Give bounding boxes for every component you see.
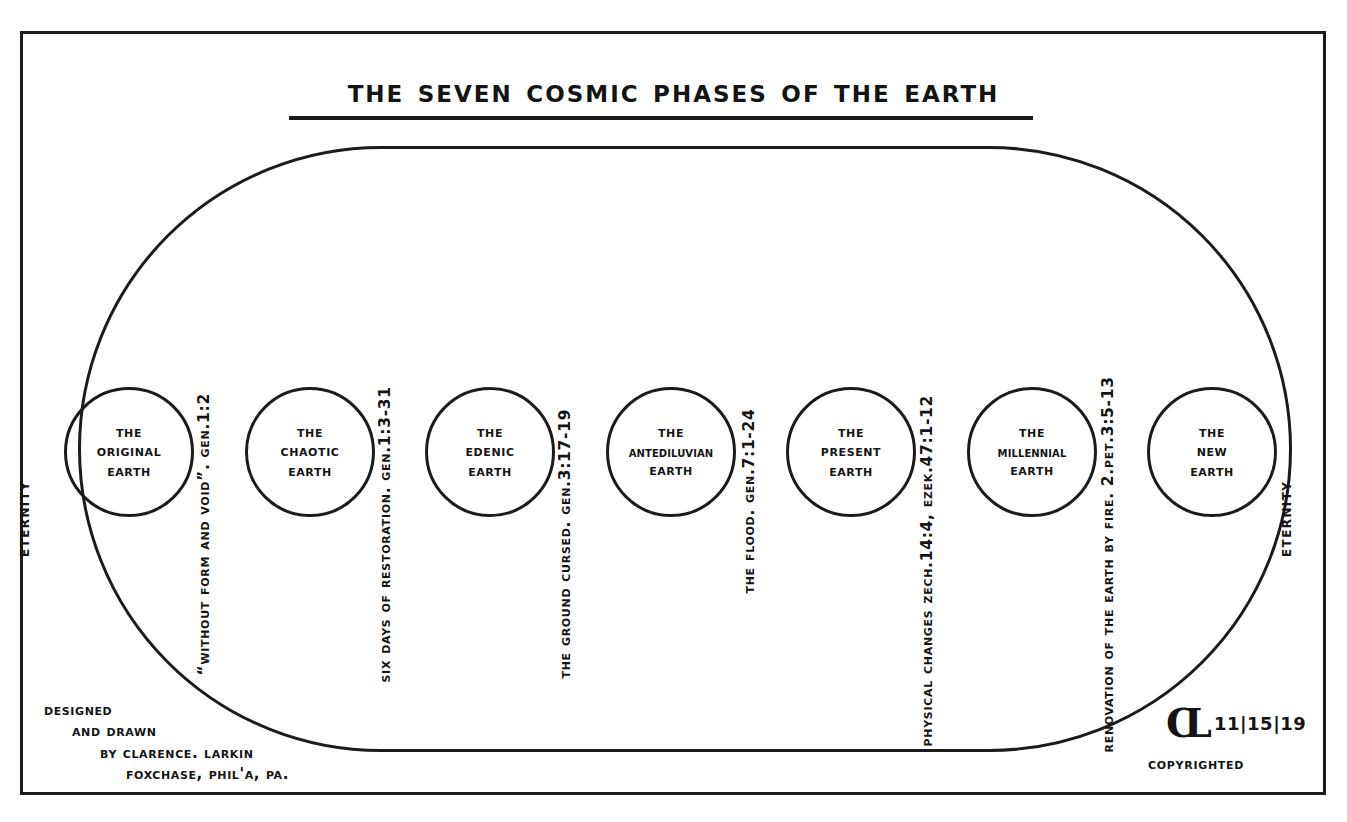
- credit-line-1: Designed: [44, 700, 289, 721]
- phase-line: Earth: [1190, 462, 1234, 482]
- copyright-block: CL 11|15|19 Copyrighted: [1148, 698, 1313, 773]
- phase-line: The: [838, 423, 864, 443]
- phase-line: The: [658, 423, 684, 443]
- phase-circle-antediluvian[interactable]: The Antediluvian Earth: [606, 387, 736, 517]
- phase-line: Chaotic: [280, 442, 339, 462]
- diagram-canvas: The Seven Cosmic Phases Of The Earth Ete…: [0, 0, 1347, 822]
- phase-circle-present[interactable]: The Present Earth: [786, 387, 916, 517]
- phase-circle-millennial[interactable]: The Millennial Earth: [967, 387, 1097, 517]
- phase-line: New: [1197, 442, 1228, 462]
- phase-circle-edenic[interactable]: The Edenic Earth: [425, 387, 555, 517]
- phase-line: The: [116, 423, 142, 443]
- transition-label-renovation-by-fire: Renovation Of The Earth By Fire. 2.Pet.3…: [1101, 376, 1117, 752]
- eternity-label-left: Eternity: [15, 481, 32, 557]
- phase-line: The: [477, 423, 503, 443]
- phase-line: The: [1019, 423, 1045, 443]
- phase-line: Earth: [288, 462, 332, 482]
- credit-line-3: By Clarence. Larkin: [100, 743, 289, 764]
- copyright-row: CL 11|15|19: [1148, 698, 1313, 748]
- phase-line: Edenic: [465, 442, 514, 462]
- phase-line: Original: [97, 442, 162, 462]
- phase-line: Earth: [649, 461, 693, 481]
- phase-line: Earth: [829, 462, 873, 482]
- copyright-word: Copyrighted: [1148, 754, 1313, 773]
- transition-label-without-form-and-void: “Without Form And Void”. Gen.1:2: [197, 393, 213, 675]
- phase-line: The: [297, 423, 323, 443]
- designer-credit-block: Designed and Drawn By Clarence. Larkin F…: [44, 700, 289, 785]
- phase-line: Earth: [468, 462, 512, 482]
- page-title: The Seven Cosmic Phases Of The Earth: [344, 74, 1004, 107]
- phase-line: Present: [821, 442, 881, 462]
- phase-circle-chaotic[interactable]: The Chaotic Earth: [245, 387, 375, 517]
- phase-circle-original[interactable]: The Original Earth: [64, 387, 194, 517]
- transition-label-the-flood: The Flood. Gen.7:1-24: [742, 409, 758, 594]
- copyright-date: 11|15|19: [1214, 713, 1306, 734]
- eternity-label-right: Eternity: [1277, 481, 1294, 557]
- page-title-container: The Seven Cosmic Phases Of The Earth: [0, 74, 1347, 107]
- transition-label-the-ground-cursed: The Ground Cursed. Gen.3:17-19: [558, 409, 574, 679]
- credit-line-4: FoxChase, Phil'a, Pa.: [126, 764, 289, 785]
- phase-line: Antediluvian: [629, 443, 714, 461]
- phase-line: Earth: [107, 462, 151, 482]
- title-underline: [289, 116, 1033, 120]
- transition-label-physical-changes: Physical Changes Zech.14:4, Ezek.47:1-12: [920, 395, 936, 747]
- larkin-monogram-icon: CL: [1166, 703, 1214, 743]
- phase-line: The: [1199, 423, 1225, 443]
- phase-circle-new[interactable]: The New Earth: [1147, 387, 1277, 517]
- phase-line: Millennial: [998, 443, 1067, 461]
- phase-line: Earth: [1010, 461, 1054, 481]
- credit-line-2: and Drawn: [72, 721, 289, 742]
- transition-label-six-days-of-restoration: Six Days Of Restoration. Gen.1:3-31: [378, 386, 394, 682]
